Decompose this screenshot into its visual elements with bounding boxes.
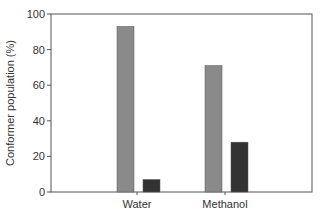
bar-water-1: [117, 26, 134, 192]
bar-methanol-2: [231, 142, 248, 192]
x-tick-label: Methanol: [202, 198, 247, 210]
y-tick-label: 100: [27, 8, 45, 20]
y-tick-label: 0: [39, 186, 45, 198]
y-tick-label: 60: [33, 79, 45, 91]
plot-border: [51, 14, 312, 192]
bars: [117, 26, 248, 192]
bar-methanol-1: [205, 66, 222, 192]
y-axis-ticks: 020406080100: [27, 8, 51, 198]
y-tick-label: 20: [33, 150, 45, 162]
x-tick-label: Water: [123, 198, 152, 210]
plot-frame: [51, 14, 312, 192]
y-tick-label: 40: [33, 115, 45, 127]
bar-water-2: [143, 180, 160, 192]
bar-chart: 020406080100 WaterMethanol Conformer pop…: [0, 0, 325, 216]
y-tick-label: 80: [33, 44, 45, 56]
y-axis-label: Conformer population (%): [4, 40, 16, 166]
x-axis-ticks: WaterMethanol: [123, 192, 248, 210]
